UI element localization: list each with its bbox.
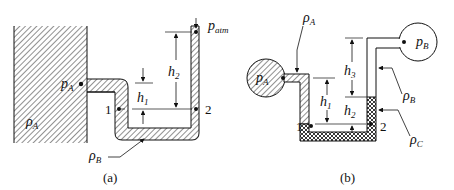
bulb-a-dot: [281, 76, 285, 80]
point-2-label-a: 2: [205, 102, 212, 117]
manometer-fluid-label-a: ρB: [88, 148, 102, 165]
fluid-b-label-b: ρB: [402, 88, 416, 105]
bulb-b-dot: [402, 40, 406, 44]
h1-label-a: h1: [137, 90, 149, 107]
tap-point-dot: [79, 82, 83, 86]
h3-label-b: h3: [344, 63, 356, 80]
caption-a: (a): [103, 170, 117, 185]
figure-a: [14, 18, 199, 157]
point-1-dot-a: [117, 107, 121, 111]
left-leg-b: [284, 74, 309, 124]
manometer-diagrams: ρA pA patm h2 h1 1 2 ρB (a): [0, 0, 454, 190]
h2-label-b: h2: [344, 103, 356, 120]
point-1-dot-b: [309, 124, 313, 128]
fluid-a-label-b: ρA: [302, 10, 316, 27]
figure-b: [247, 23, 437, 141]
fluid-c-label-b: ρC: [409, 132, 424, 149]
point-2-dot-b: [369, 122, 373, 126]
atm-pressure-label: patm: [207, 18, 229, 35]
point-2-label-b: 2: [380, 119, 387, 134]
caption-b: (b): [340, 170, 355, 185]
h2-label-a: h2: [168, 64, 180, 81]
point-2-dot-a: [194, 107, 198, 111]
point-1-label-b: 1: [296, 119, 303, 134]
bottom-u-fluid-c: [300, 97, 376, 141]
atm-dot: [194, 30, 198, 34]
point-1-label-a: 1: [105, 102, 112, 117]
tank-a: [14, 26, 87, 143]
h1-label-b: h1: [320, 94, 332, 111]
right-leg-b: [367, 38, 400, 97]
